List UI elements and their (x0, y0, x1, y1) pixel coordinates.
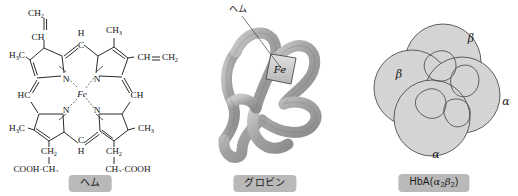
label-n-bottom-right: N (94, 105, 101, 115)
subunit-label-beta-top: β (467, 32, 474, 45)
label-ch3-upper-right: CH3 (106, 25, 122, 36)
label-ch2-right-propionate: CH2 (106, 146, 122, 157)
label-h-top-meso: H (78, 28, 85, 38)
label-c-bottom-meso: C (78, 135, 84, 145)
subunit-label-beta-left: β (395, 68, 402, 81)
hba-tetramer-diagram: β β α α (350, 0, 518, 172)
caption-hba-suffix: ) (455, 176, 459, 187)
label-fe-center: Fe (76, 89, 87, 99)
heme-structure-diagram: CH2 CH H3C H C CH3 CH CH2 HC CH Fe N N N… (0, 0, 180, 172)
globin-polypeptide-ribbon (224, 33, 316, 158)
caption-hba-alpha-sub: 2 (440, 181, 444, 188)
caption-heme: ヘム (69, 175, 112, 192)
label-ch2-top: CH2 (28, 8, 44, 19)
panel-hba: β β α α HbA(α2β2) (350, 0, 518, 196)
label-ch2-cooh-right: CH2·COOH (105, 164, 150, 172)
label-h-bottom-meso: H (78, 146, 85, 156)
label-ch-right-meso: CH (131, 90, 144, 100)
globin-structure-diagram: Fe ヘム (180, 0, 350, 172)
caption-hba-beta-sub: 2 (451, 181, 455, 188)
label-ch2-left-propionate: CH2 (41, 146, 57, 157)
label-n-top-right: N (94, 74, 101, 84)
label-h3c-lower-left: H3C (9, 123, 25, 134)
hemoglobin-structure-figure: CH2 CH H3C H C CH3 CH CH2 HC CH Fe N N N… (0, 0, 518, 196)
subunit-globule-alpha-bottom (394, 80, 470, 156)
label-ch-right-vinyl: CH (138, 52, 151, 62)
caption-hba: HbA(α2β2) (398, 174, 469, 192)
label-ch-top-vinyl: CH (32, 32, 45, 42)
caption-hba-prefix: HbA( (409, 176, 433, 187)
label-n-bottom-left: N (63, 105, 70, 115)
label-h3c-upper-left: H3C (9, 50, 25, 61)
label-c-top-meso: C (78, 40, 84, 50)
heme-plate: Fe (266, 54, 296, 84)
label-hc-left-meso: HC (18, 90, 31, 100)
subunit-label-alpha-right: α (502, 95, 510, 108)
panel-globin: Fe ヘム グロビン (180, 0, 350, 196)
panel-heme: CH2 CH H3C H C CH3 CH CH2 HC CH Fe N N N… (0, 0, 180, 196)
heme-pointer-label: ヘム (229, 4, 247, 14)
label-n-top-left: N (63, 74, 70, 84)
caption-hba-alpha: α (433, 176, 440, 187)
label-ch2-right-vinyl: CH2 (162, 52, 178, 63)
label-ch3-lower-right: CH3 (138, 123, 154, 134)
subunit-label-alpha-bottom: α (432, 148, 440, 161)
label-cooh-ch2-left: COOH·CH2 (13, 164, 58, 172)
caption-globin: グロビン (233, 175, 296, 192)
